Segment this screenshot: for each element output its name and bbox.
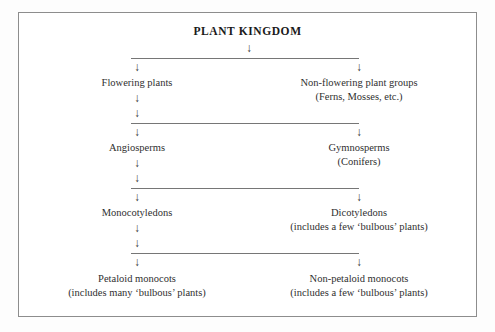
- connector-rule-2: [131, 123, 359, 124]
- node-sublabel: (includes a few ‘bulbous’ plants): [264, 286, 454, 300]
- node-dicotyledons: Dicotyledons (includes a few ‘bulbous’ p…: [264, 206, 454, 234]
- arrow-chain-2b: ↓: [130, 172, 144, 184]
- node-monocotyledons: Monocotyledons: [47, 206, 227, 220]
- connector-rule-1: [131, 58, 359, 59]
- node-angiosperms: Angiosperms: [57, 141, 217, 155]
- arrow-chain-3a: ↓: [130, 222, 144, 234]
- arrow-branch-right-4: ↓: [352, 256, 366, 268]
- connector-rule-3: [131, 188, 359, 189]
- arrow-chain-2a: ↓: [130, 157, 144, 169]
- node-flowering-plants: Flowering plants: [57, 76, 217, 90]
- node-label: Non-petaloid monocots: [310, 273, 409, 284]
- arrow-title-down: ↓: [242, 42, 256, 54]
- node-label: Gymnosperms: [328, 142, 389, 153]
- arrow-chain-1a: ↓: [130, 92, 144, 104]
- node-non-petaloid-monocots: Non-petaloid monocots (includes a few ‘b…: [264, 272, 454, 300]
- node-label: Flowering plants: [102, 77, 173, 88]
- arrow-branch-left-1: ↓: [130, 61, 144, 73]
- diagram-canvas: PLANT KINGDOM ↓ ↓ ↓ Flowering plants Non…: [0, 0, 495, 332]
- arrow-branch-left-3: ↓: [130, 191, 144, 203]
- node-label: Petaloid monocots: [98, 273, 176, 284]
- node-sublabel: (Ferns, Mosses, etc.): [279, 90, 439, 104]
- node-label: Angiosperms: [109, 142, 165, 153]
- node-label: Non-flowering plant groups: [300, 77, 417, 88]
- arrow-branch-right-2: ↓: [352, 126, 366, 138]
- node-sublabel: (Conifers): [279, 155, 439, 169]
- connector-rule-4: [131, 253, 359, 254]
- node-petaloid-monocots: Petaloid monocots (includes many ‘bulbou…: [42, 272, 232, 300]
- node-label: Dicotyledons: [331, 207, 387, 218]
- page-title: PLANT KINGDOM: [19, 25, 476, 37]
- diagram-frame: PLANT KINGDOM ↓ ↓ ↓ Flowering plants Non…: [18, 12, 477, 317]
- node-label: Monocotyledons: [102, 207, 173, 218]
- arrow-chain-3b: ↓: [130, 237, 144, 249]
- arrow-branch-right-1: ↓: [352, 61, 366, 73]
- node-sublabel: (includes many ‘bulbous’ plants): [42, 286, 232, 300]
- node-sublabel: (includes a few ‘bulbous’ plants): [264, 220, 454, 234]
- arrow-branch-left-4: ↓: [130, 256, 144, 268]
- arrow-chain-1b: ↓: [130, 107, 144, 119]
- arrow-branch-right-3: ↓: [352, 191, 366, 203]
- node-non-flowering-plant-groups: Non-flowering plant groups (Ferns, Mosse…: [279, 76, 439, 104]
- arrow-branch-left-2: ↓: [130, 126, 144, 138]
- node-gymnosperms: Gymnosperms (Conifers): [279, 141, 439, 169]
